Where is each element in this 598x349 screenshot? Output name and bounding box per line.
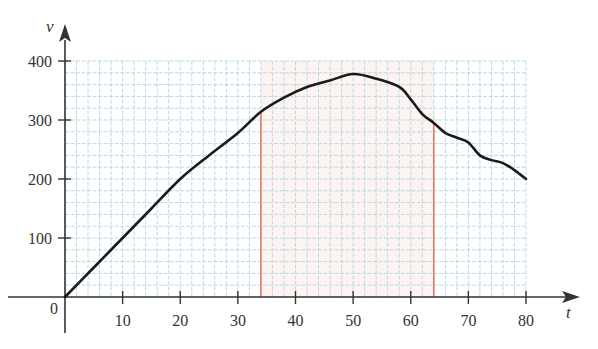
origin-label: 0 bbox=[50, 300, 58, 317]
x-axis-label: t bbox=[566, 303, 572, 322]
y-tick-label: 100 bbox=[28, 230, 52, 247]
y-tick-label: 300 bbox=[28, 112, 52, 129]
y-tick-label: 400 bbox=[28, 53, 52, 70]
x-tick-label: 80 bbox=[518, 312, 534, 329]
y-axis-arrow-icon bbox=[59, 24, 71, 42]
x-tick-label: 70 bbox=[460, 312, 476, 329]
x-tick-label: 60 bbox=[403, 312, 419, 329]
y-tick-label: 200 bbox=[28, 171, 52, 188]
chart-canvas: 1020304050607080100200300400 v t 0 bbox=[0, 0, 598, 349]
x-tick-label: 20 bbox=[172, 312, 188, 329]
x-tick-label: 50 bbox=[345, 312, 361, 329]
x-tick-label: 30 bbox=[230, 312, 246, 329]
x-tick-label: 10 bbox=[115, 312, 131, 329]
grid bbox=[65, 61, 526, 297]
y-axis-label: v bbox=[46, 17, 54, 36]
x-tick-label: 40 bbox=[288, 312, 304, 329]
